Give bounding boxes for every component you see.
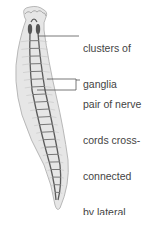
label-line: cords cross-	[83, 134, 141, 146]
lateral-nerve	[41, 132, 53, 133]
lateral-nerve	[34, 101, 47, 102]
lateral-nerve	[32, 86, 45, 87]
label-nerve-cords: pair of nerve cords cross- connected by …	[83, 74, 141, 215]
label-line: by lateral	[83, 206, 141, 215]
ganglion-left	[28, 24, 32, 34]
label-line: clusters of	[83, 42, 131, 54]
lateral-nerve	[43, 139, 55, 140]
lateral-nerve	[33, 94, 46, 95]
label-line: connected	[83, 170, 141, 182]
label-line: pair of nerve	[83, 98, 141, 110]
ganglion-right	[36, 24, 40, 34]
